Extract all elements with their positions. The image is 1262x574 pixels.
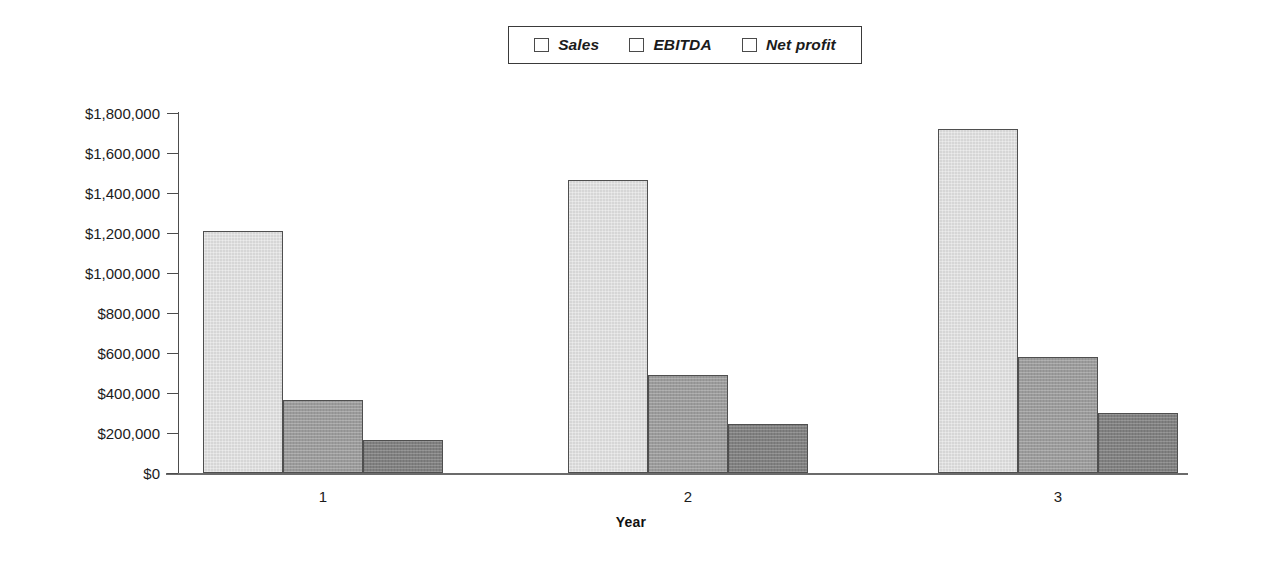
y-axis-tick-mark — [167, 193, 178, 194]
bar-ebitda-year-2[interactable] — [648, 375, 728, 473]
bar-sales-year-2[interactable] — [568, 180, 648, 473]
y-axis-tick-label: $1,400,000 — [85, 185, 166, 202]
bar-sales-year-3[interactable] — [938, 129, 1018, 473]
bar-ebitda-year-3[interactable] — [1018, 357, 1098, 473]
y-axis-tick-label: $200,000 — [97, 425, 166, 442]
y-axis-tick-label: $1,000,000 — [85, 265, 166, 282]
y-axis-tick-mark — [167, 393, 178, 394]
y-axis-tick-label: $0 — [143, 465, 166, 482]
y-axis-tick-label: $600,000 — [97, 345, 166, 362]
y-axis-tick-label: $400,000 — [97, 385, 166, 402]
y-axis-tick-label: $800,000 — [97, 305, 166, 322]
x-axis-title: Year — [0, 514, 1262, 530]
x-axis-category-label: 1 — [319, 488, 327, 505]
y-axis-tick-label: $1,800,000 — [85, 105, 166, 122]
chart-canvas: Sales EBITDA Net profit $0$200,000$400,0… — [0, 0, 1262, 574]
y-axis-tick-label: $1,600,000 — [85, 145, 166, 162]
y-axis-tick-mark — [167, 273, 178, 274]
y-axis-tick-mark — [167, 473, 178, 474]
y-axis-tick-mark — [167, 433, 178, 434]
bar-net-profit-year-1[interactable] — [363, 440, 443, 473]
x-axis-category-label: 2 — [684, 488, 692, 505]
plot-area: $0$200,000$400,000$600,000$800,000$1,000… — [0, 0, 1262, 574]
bar-net-profit-year-3[interactable] — [1098, 413, 1178, 473]
y-axis-tick-mark — [167, 353, 178, 354]
bar-ebitda-year-1[interactable] — [283, 400, 363, 473]
y-axis-tick-mark — [167, 153, 178, 154]
bar-net-profit-year-2[interactable] — [728, 424, 808, 473]
y-axis-tick-mark — [167, 113, 178, 114]
x-axis-category-label: 3 — [1054, 488, 1062, 505]
y-axis-tick-label: $1,200,000 — [85, 225, 166, 242]
y-axis-tick-mark — [167, 313, 178, 314]
y-axis-line — [178, 112, 179, 474]
bar-sales-year-1[interactable] — [203, 231, 283, 473]
y-axis-tick-mark — [167, 233, 178, 234]
x-axis-line — [166, 473, 1188, 475]
